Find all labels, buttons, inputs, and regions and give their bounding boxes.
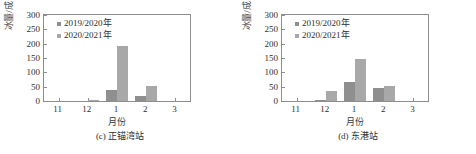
- bar: [146, 86, 157, 101]
- bar: [384, 86, 395, 101]
- x-axis-title: 月份: [281, 117, 429, 128]
- panel-caption: (c) 正锚湾站: [20, 131, 220, 142]
- x-axis-tick-labels: 1112123: [43, 104, 191, 116]
- y-axis-tick-label: 100: [265, 68, 279, 77]
- x-axis-tick-label: 11: [53, 104, 62, 114]
- bar: [106, 90, 117, 101]
- x-axis-tick-label: 3: [172, 104, 177, 114]
- x-axis-tick-label: 12: [82, 104, 91, 114]
- bar: [88, 100, 99, 101]
- x-axis-tick-label: 3: [410, 104, 415, 114]
- y-axis-tick-label: 200: [265, 39, 279, 48]
- bar: [326, 91, 337, 101]
- y-axis-tick-label: 150: [27, 54, 41, 63]
- y-axis-tick-label: 200: [27, 39, 41, 48]
- legend-item: 2020/2021年: [57, 31, 112, 40]
- bar: [344, 82, 355, 101]
- bar: [373, 88, 384, 101]
- bar: [355, 59, 366, 101]
- legend-item: 2019/2020年: [57, 19, 112, 28]
- x-axis-tick-label: 1: [114, 104, 119, 114]
- y-axis-tick-label: 300: [265, 11, 279, 20]
- y-axis-tick-label: 100: [27, 68, 41, 77]
- y-axis-tick-label: 150: [265, 54, 279, 63]
- x-axis-tick-label: 1: [352, 104, 357, 114]
- x-axis-title: 月份: [43, 117, 191, 128]
- legend-label: 2020/2021年: [64, 31, 112, 40]
- legend-label: 2019/2020年: [64, 19, 112, 28]
- legend-item: 2019/2020年: [295, 19, 350, 28]
- bar: [135, 96, 146, 101]
- x-axis-tick-label: 11: [291, 104, 300, 114]
- x-axis-tick-label: 2: [143, 104, 148, 114]
- chart-panel-c: 冰量/成 050100150200250300 2019/2020年2020/2…: [0, 0, 238, 154]
- y-axis-tick-label: 0: [36, 97, 41, 106]
- y-axis-tick-labels: 050100150200250300: [252, 14, 278, 102]
- legend-swatch-icon: [295, 34, 299, 38]
- y-axis-tick-label: 0: [274, 97, 279, 106]
- legend-label: 2019/2020年: [302, 19, 350, 28]
- legend: 2019/2020年2020/2021年: [295, 19, 350, 40]
- legend: 2019/2020年2020/2021年: [57, 19, 112, 40]
- y-axis-tick-labels: 050100150200250300: [14, 14, 40, 102]
- y-axis-tick-label: 300: [27, 11, 41, 20]
- legend-swatch-icon: [295, 22, 299, 26]
- y-axis-tick-label: 50: [31, 82, 40, 91]
- y-axis-tick-label: 50: [269, 82, 278, 91]
- y-axis-tick-label: 250: [265, 25, 279, 34]
- y-axis-tick-label: 250: [27, 25, 41, 34]
- bar: [117, 46, 128, 101]
- x-axis-tick-labels: 1112123: [281, 104, 429, 116]
- legend-swatch-icon: [57, 22, 61, 26]
- legend-swatch-icon: [57, 34, 61, 38]
- chart-panel-d: 冰量/成 050100150200250300 2019/2020年2020/2…: [238, 0, 476, 154]
- x-axis-tick-label: 2: [381, 104, 386, 114]
- bar: [315, 100, 326, 101]
- legend-item: 2020/2021年: [295, 31, 350, 40]
- legend-label: 2020/2021年: [302, 31, 350, 40]
- figure-panel-row: 冰量/成 050100150200250300 2019/2020年2020/2…: [0, 0, 476, 154]
- panel-caption: (d) 东港站: [258, 131, 458, 142]
- x-axis-tick-label: 12: [320, 104, 329, 114]
